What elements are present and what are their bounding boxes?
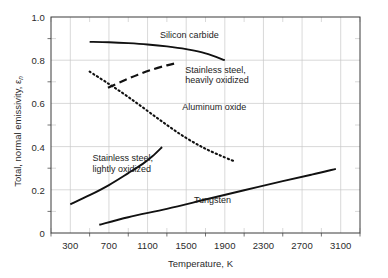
y-axis-title: Total, normal emissivity, εn (12, 66, 25, 196)
series-label: Aluminum oxide (182, 102, 246, 113)
y-tick-label: 0 (20, 228, 45, 239)
series-label: Tungsten (194, 195, 231, 206)
x-tick-label: 1900 (214, 240, 236, 251)
series-label-line1: Stainless steel, (185, 65, 249, 76)
x-axis-title: Temperature, K (168, 258, 233, 269)
y-tick-label: 0.8 (20, 55, 45, 66)
x-tick-label: 3100 (330, 240, 352, 251)
y-axis-title-subscript: n (17, 76, 24, 80)
x-tick-label: 700 (101, 240, 117, 251)
series-label: Silicon carbide (160, 30, 219, 41)
series-label: Stainless steel,heavily oxidized (185, 65, 249, 86)
x-tick-label: 2700 (291, 240, 313, 251)
series-label-line1: Stainless steel, (93, 153, 154, 164)
emissivity-chart-figure: 300700110015001900230027003100 00.20.40.… (0, 0, 388, 278)
series-label-line2: lightly oxidized (93, 164, 154, 175)
series-label: Stainless steel,lightly oxidized (93, 153, 154, 174)
plot-canvas (0, 0, 388, 278)
x-tick-label: 300 (62, 240, 78, 251)
x-tick-label: 2300 (253, 240, 275, 251)
series-curve (108, 63, 177, 88)
x-tick-label: 1500 (175, 240, 197, 251)
x-tick-label: 1100 (137, 240, 158, 251)
y-tick-label: 1.0 (20, 12, 45, 23)
y-axis-title-text: Total, normal emissivity, ε (12, 80, 23, 187)
series-label-line2: heavily oxidized (185, 75, 249, 86)
series-curve (90, 42, 225, 60)
